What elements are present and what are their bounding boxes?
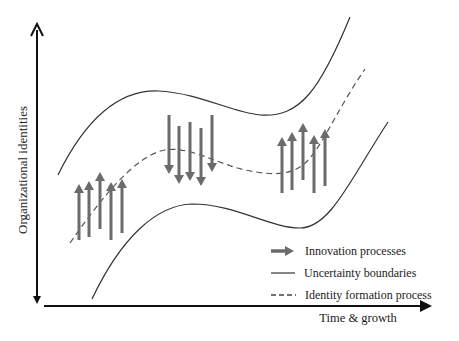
innovation-arrows-middle bbox=[164, 115, 217, 186]
svg-text:Innovation processes: Innovation processes bbox=[305, 244, 406, 258]
arrow-icon bbox=[285, 246, 294, 256]
upper-uncertainty-boundary bbox=[58, 17, 350, 175]
innovation-arrows-early bbox=[74, 172, 127, 240]
svg-text:Uncertainty boundaries: Uncertainty boundaries bbox=[304, 266, 417, 280]
legend: Innovation processes Uncertainty boundar… bbox=[271, 244, 432, 302]
innovation-arrows-late bbox=[277, 123, 330, 193]
y-axis bbox=[31, 24, 43, 304]
legend-item-uncertainty: Uncertainty boundaries bbox=[271, 266, 417, 280]
diagram-canvas: Organizational identities Time & growth … bbox=[0, 0, 459, 341]
legend-item-innovation: Innovation processes bbox=[271, 244, 406, 258]
svg-text:Identity formation process: Identity formation process bbox=[305, 288, 432, 302]
legend-item-identity: Identity formation process bbox=[271, 288, 432, 302]
x-axis-label: Time & growth bbox=[319, 311, 397, 325]
y-axis-label: Organizational identities bbox=[15, 106, 30, 234]
identity-formation-line bbox=[70, 69, 365, 243]
